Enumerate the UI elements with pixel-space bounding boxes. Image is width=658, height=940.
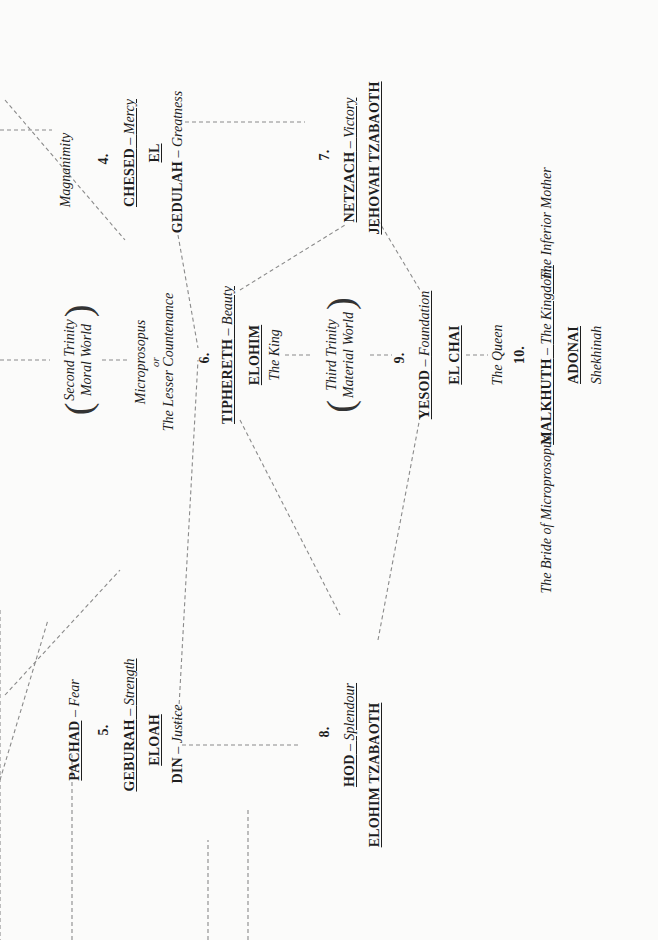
path-netzach-to-yesod xyxy=(378,220,420,290)
chesed-label: CHESED – Mercy xyxy=(122,99,138,207)
jehovah-tzabaoth-god-name: JEHOVAH TZABAOTH xyxy=(367,81,383,234)
pachad-label: PACHAD – Fear xyxy=(67,679,83,780)
sephirah-number-5: 5. xyxy=(96,725,112,736)
sephirah-number-4: 4. xyxy=(96,154,112,165)
gedulah-label: GEDULAH – Greatness xyxy=(170,91,186,233)
path-din-to-tiphereth xyxy=(178,360,198,725)
din-label: DIN – Justice xyxy=(170,704,186,783)
netzach-label: NETZACH – Victory xyxy=(342,98,358,223)
elohim-god-name: ELOHIM xyxy=(247,325,263,385)
the-king-title: The King xyxy=(267,329,283,381)
left-parenthesis: ( xyxy=(59,403,97,416)
malkhuth-label: MALKHUTH – The Kingdom, xyxy=(539,265,555,445)
tiphereth-label: TIPHERETH – Beauty xyxy=(220,286,236,424)
hod-label: HOD – Splendour xyxy=(342,683,358,787)
tree-of-life-diagram: PACHAD – Fear 5. GEBURAH – Strength ELOA… xyxy=(0,0,658,940)
third-trinity-group: ( Third Trinity Material World ) xyxy=(321,297,359,413)
path-hod-to-yesod xyxy=(378,417,420,640)
left-parenthesis: ( xyxy=(321,400,359,413)
connector-lines xyxy=(0,0,658,940)
path-tiphereth-to-netzach xyxy=(240,225,345,290)
magnanimity-label: Magnanimity xyxy=(58,133,74,208)
el-chai-god-name: EL CHAI xyxy=(447,325,463,384)
sephirah-number-10: 10. xyxy=(512,346,528,364)
right-parenthesis: ) xyxy=(321,297,359,310)
bride-of-microprosopus-note: The Bride of Microprosopus, xyxy=(539,432,555,594)
shekhinah-subtitle: Shekhinah xyxy=(589,326,605,384)
path-tiphereth-to-hod xyxy=(240,420,340,615)
inferior-mother-note: The Inferior Mother xyxy=(539,167,555,280)
path-gedulah-to-tiphereth xyxy=(178,235,198,348)
yesod-label: YESOD – Foundation xyxy=(417,291,433,420)
el-god-name: EL xyxy=(147,143,163,162)
microprosopus-label: Microprosopus or The Lesser Countenance xyxy=(133,293,177,431)
second-trinity-group: ( Second Trinity Moral World ) xyxy=(59,305,97,416)
path-upper-left-diagonal xyxy=(5,570,120,695)
geburah-label: GEBURAH – Strength xyxy=(122,658,138,791)
the-queen-title: The Queen xyxy=(490,324,506,385)
eloah-god-name: ELOAH xyxy=(147,714,163,766)
right-parenthesis: ) xyxy=(59,305,97,318)
adonai-god-name: ADONAI xyxy=(566,326,582,384)
sephirah-number-7: 7. xyxy=(317,150,333,161)
elohim-tzabaoth-god-name: ELOHIM TZABAOTH xyxy=(367,703,383,848)
sephirah-number-9: 9. xyxy=(392,353,408,364)
sephirah-number-8: 8. xyxy=(317,727,333,738)
sephirah-number-6: 6. xyxy=(197,353,213,364)
